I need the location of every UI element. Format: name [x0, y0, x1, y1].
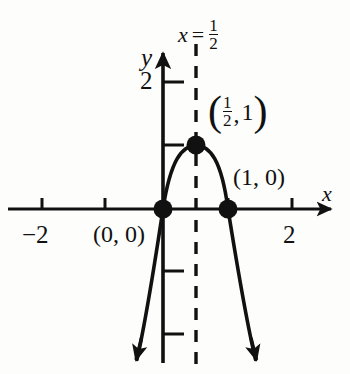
symmetry-fraction-one-half: 1 2	[209, 17, 218, 53]
x-axis-label: x	[322, 183, 332, 205]
symmetry-fraction-numerator: 1	[209, 17, 218, 34]
symmetry-fraction-denominator: 2	[209, 34, 218, 52]
point-root-one-dot	[219, 200, 238, 219]
vertex-fraction-numerator: 1	[223, 94, 232, 111]
origin-point-label: (0, 0)	[93, 222, 145, 246]
symmetry-variable: x	[178, 24, 188, 46]
parabola-figure: y x 2 −2 2 (0, 0) (1, 0) ( 1 2 , 1 ) x =…	[0, 0, 350, 374]
vertex-fraction-denominator: 2	[223, 111, 232, 129]
vertex-point-label: ( 1 2 , 1 )	[208, 94, 268, 130]
vertex-comma: ,	[234, 102, 240, 130]
point-vertex-dot	[187, 136, 206, 155]
x-tick-label-2: 2	[283, 222, 296, 247]
vertex-close-paren: )	[254, 95, 268, 128]
vertex-open-paren: (	[208, 95, 222, 128]
x-tick-label-minus-2: −2	[22, 222, 49, 247]
vertex-y-value: 1	[242, 100, 254, 124]
plot-canvas	[0, 0, 350, 374]
root-point-label: (1, 0)	[233, 165, 285, 189]
symmetry-equals-sign: =	[192, 24, 204, 46]
vertex-fraction-one-half: 1 2	[223, 94, 232, 130]
y-tick-label-2: 2	[140, 68, 153, 93]
point-origin-dot	[154, 200, 173, 219]
axis-of-symmetry-label: x = 1 2	[178, 17, 219, 53]
